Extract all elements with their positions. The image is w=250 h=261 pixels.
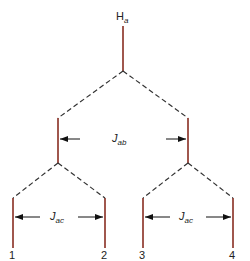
line-label-2: 2 bbox=[101, 250, 107, 261]
line-label-3: 3 bbox=[139, 250, 145, 261]
coupling-label-ab: Jab bbox=[110, 133, 128, 147]
coupling-arrows bbox=[15, 139, 231, 217]
top-label: Ha bbox=[116, 11, 128, 25]
splitting-tree-diagram bbox=[0, 0, 250, 261]
line-label-4: 4 bbox=[229, 250, 235, 261]
coupling-label-ac-left: Jac bbox=[48, 211, 66, 225]
line-label-1: 1 bbox=[9, 250, 15, 261]
coupling-label-ac-right: Jac bbox=[177, 211, 195, 225]
